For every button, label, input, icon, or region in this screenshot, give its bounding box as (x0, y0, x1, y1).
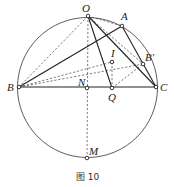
point-Q (110, 86, 114, 90)
label-A: A (120, 10, 128, 22)
label-O: O (82, 2, 90, 14)
point-B (17, 85, 21, 89)
geometry-diagram: O A B C B' N Q I M 图 10 (0, 0, 174, 187)
label-M: M (88, 145, 99, 157)
label-N: N (77, 76, 86, 88)
label-B: B (7, 81, 14, 93)
point-N (85, 86, 89, 90)
label-Bprime: B' (145, 51, 155, 63)
figure-caption: 图 10 (76, 172, 100, 182)
segment-BI (19, 62, 112, 87)
label-C: C (160, 81, 168, 93)
point-O (86, 14, 90, 18)
label-I: I (110, 47, 116, 59)
point-I (110, 60, 114, 64)
label-Q: Q (108, 91, 116, 103)
point-C (154, 85, 158, 89)
point-A (120, 24, 124, 28)
segment-QBprime (112, 64, 143, 88)
